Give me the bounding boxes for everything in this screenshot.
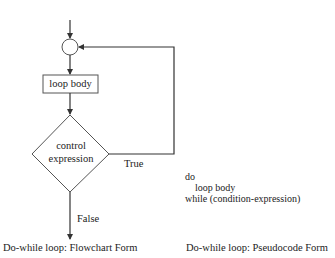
flowchart-caption: Do-while loop: Flowchart Form xyxy=(3,242,137,254)
decision-label: control expression xyxy=(40,140,102,165)
pseudocode-line-body: loop body xyxy=(185,182,300,193)
loop-body-label: loop body xyxy=(43,75,98,93)
false-label: False xyxy=(77,213,99,225)
junction-circle xyxy=(62,39,78,55)
pseudocode-line-do: do xyxy=(185,171,300,182)
flowchart-diagram xyxy=(0,0,335,258)
pseudocode-block: do loop body while (condition-expression… xyxy=(185,171,300,204)
decision-label-line1: control xyxy=(40,140,102,153)
true-label: True xyxy=(124,158,143,170)
pseudocode-caption: Do-while loop: Pseudocode Form xyxy=(186,242,328,254)
pseudocode-line-while: while (condition-expression) xyxy=(185,193,300,204)
decision-label-line2: expression xyxy=(40,153,102,166)
